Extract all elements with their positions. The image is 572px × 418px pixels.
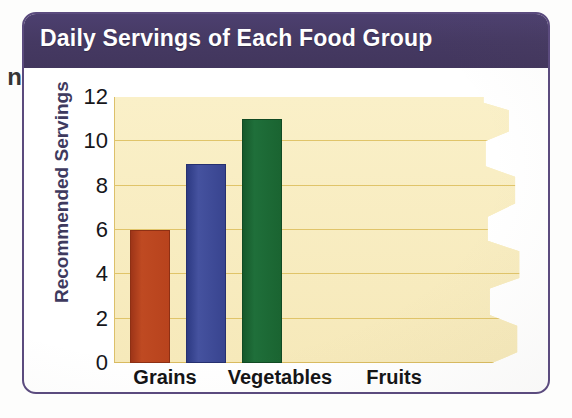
- y-axis-tick-label: 2: [64, 306, 108, 332]
- plot-area-wrapper: [114, 97, 534, 363]
- gridline: [114, 273, 534, 274]
- x-axis-label-fruits: Fruits: [366, 366, 422, 389]
- gridline: [114, 140, 534, 141]
- bar-fruits: [242, 119, 282, 363]
- bar-grains: [130, 230, 170, 363]
- y-axis-line: [114, 97, 115, 363]
- bar-vegetables: [186, 164, 226, 364]
- y-axis-tick-label: 4: [64, 261, 108, 287]
- gridline: [114, 318, 534, 319]
- x-axis-label-grains: Grains: [133, 366, 196, 389]
- gridline: [114, 185, 534, 186]
- plot-area: [114, 97, 534, 363]
- y-axis-tick-label: 6: [64, 217, 108, 243]
- chart-body: Recommended Servings 024681012 GrainsVeg…: [24, 70, 550, 394]
- gridline: [114, 229, 534, 230]
- y-axis-tick-label: 10: [64, 128, 108, 154]
- page-margin-text-fragment: n: [0, 62, 22, 92]
- y-axis-tick-label: 8: [64, 173, 108, 199]
- figure-title: Daily Servings of Each Food Group: [40, 25, 433, 52]
- gridline: [114, 96, 534, 97]
- figure-card: Daily Servings of Each Food Group Recomm…: [22, 12, 550, 394]
- y-axis-tick-labels: 024681012: [64, 70, 108, 394]
- x-axis-line: [114, 362, 534, 363]
- x-axis-label-vegetables: Vegetables: [228, 366, 333, 389]
- figure-header-bar: Daily Servings of Each Food Group: [22, 12, 550, 68]
- x-axis-category-labels: GrainsVegetablesFruits: [24, 366, 550, 394]
- y-axis-tick-label: 12: [64, 84, 108, 110]
